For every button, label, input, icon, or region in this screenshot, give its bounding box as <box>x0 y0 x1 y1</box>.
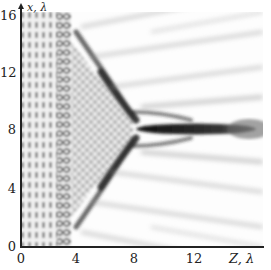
x-axis-line <box>20 246 264 248</box>
x-tick-12: 12 <box>186 252 203 266</box>
figure: x, λ Z, λ 0 4 8 12 16 0 4 8 12 <box>0 0 271 270</box>
intensity-pattern <box>21 12 263 247</box>
y-tick-8: 8 <box>0 123 16 136</box>
y-tick-16: 16 <box>0 9 16 22</box>
x-tick-8: 8 <box>130 252 138 266</box>
y-tick-4: 4 <box>0 182 16 195</box>
y-axis-label: x, λ <box>27 2 47 13</box>
x-tick-4: 4 <box>72 252 80 266</box>
y-axis-line <box>20 6 22 248</box>
intensity-plot <box>21 12 263 247</box>
x-axis-label: Z, λ <box>229 252 254 266</box>
x-tick-0: 0 <box>17 252 25 266</box>
y-tick-0: 0 <box>0 240 16 253</box>
y-axis-arrow-icon <box>18 3 24 9</box>
y-tick-12: 12 <box>0 66 16 79</box>
